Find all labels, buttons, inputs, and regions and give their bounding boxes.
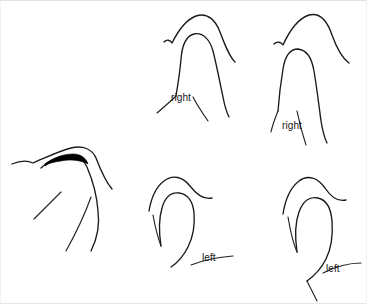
figure-panel: right right left left	[0, 0, 367, 304]
panel-middle-left	[12, 147, 112, 251]
panel-top-left	[157, 15, 235, 121]
label-left-bottom-right: left	[326, 264, 340, 274]
outer-curve	[274, 15, 349, 63]
right-tail	[193, 97, 208, 121]
outer-curve	[149, 177, 212, 211]
label-right-top-left: right	[171, 93, 191, 103]
left-tail	[271, 111, 278, 132]
panel-bottom-right	[283, 177, 361, 301]
left-tail	[34, 192, 61, 219]
label-right-top-right: right	[282, 121, 302, 131]
inner-curve	[160, 193, 195, 267]
label-left-bottom-middle: left	[202, 253, 216, 263]
line-drawing-canvas	[1, 1, 367, 304]
filled-wedge	[45, 154, 88, 166]
outer-curve	[12, 147, 112, 189]
outer-curve	[164, 15, 235, 62]
right-tail	[66, 197, 91, 251]
inner-curve	[176, 34, 229, 117]
panel-bottom-middle	[149, 177, 233, 267]
outer-curve	[283, 177, 346, 214]
extra-tail	[307, 281, 317, 301]
